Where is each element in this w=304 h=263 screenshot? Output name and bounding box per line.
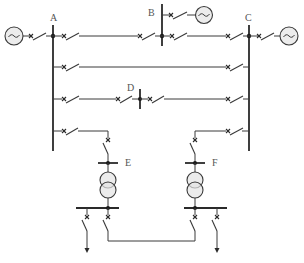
breaker-gen-b xyxy=(162,12,196,19)
single-line-diagram: A C B xyxy=(0,0,304,263)
line-a-d-c xyxy=(53,89,249,109)
busbar-c xyxy=(247,25,251,151)
breaker-gen-left xyxy=(23,33,53,40)
label-d: D xyxy=(127,82,134,93)
label-f: F xyxy=(212,157,218,168)
label-b: B xyxy=(148,7,155,18)
busbar-b xyxy=(160,4,164,46)
line-a-c-2 xyxy=(53,64,249,71)
generator-left xyxy=(5,27,23,45)
line-c-f xyxy=(190,128,249,163)
generator-b xyxy=(196,7,213,24)
label-a: A xyxy=(50,12,58,23)
load-f xyxy=(212,208,220,253)
tie-line-e-f xyxy=(103,208,197,241)
line-a-b-c xyxy=(53,33,249,40)
label-e: E xyxy=(125,157,131,168)
substation-f xyxy=(184,161,227,210)
substation-e xyxy=(76,161,119,210)
busbar-a xyxy=(51,25,55,151)
generator-right xyxy=(280,27,298,45)
breaker-gen-right xyxy=(249,33,280,40)
line-a-e xyxy=(53,128,110,163)
load-e xyxy=(82,208,90,253)
label-c: C xyxy=(245,12,252,23)
